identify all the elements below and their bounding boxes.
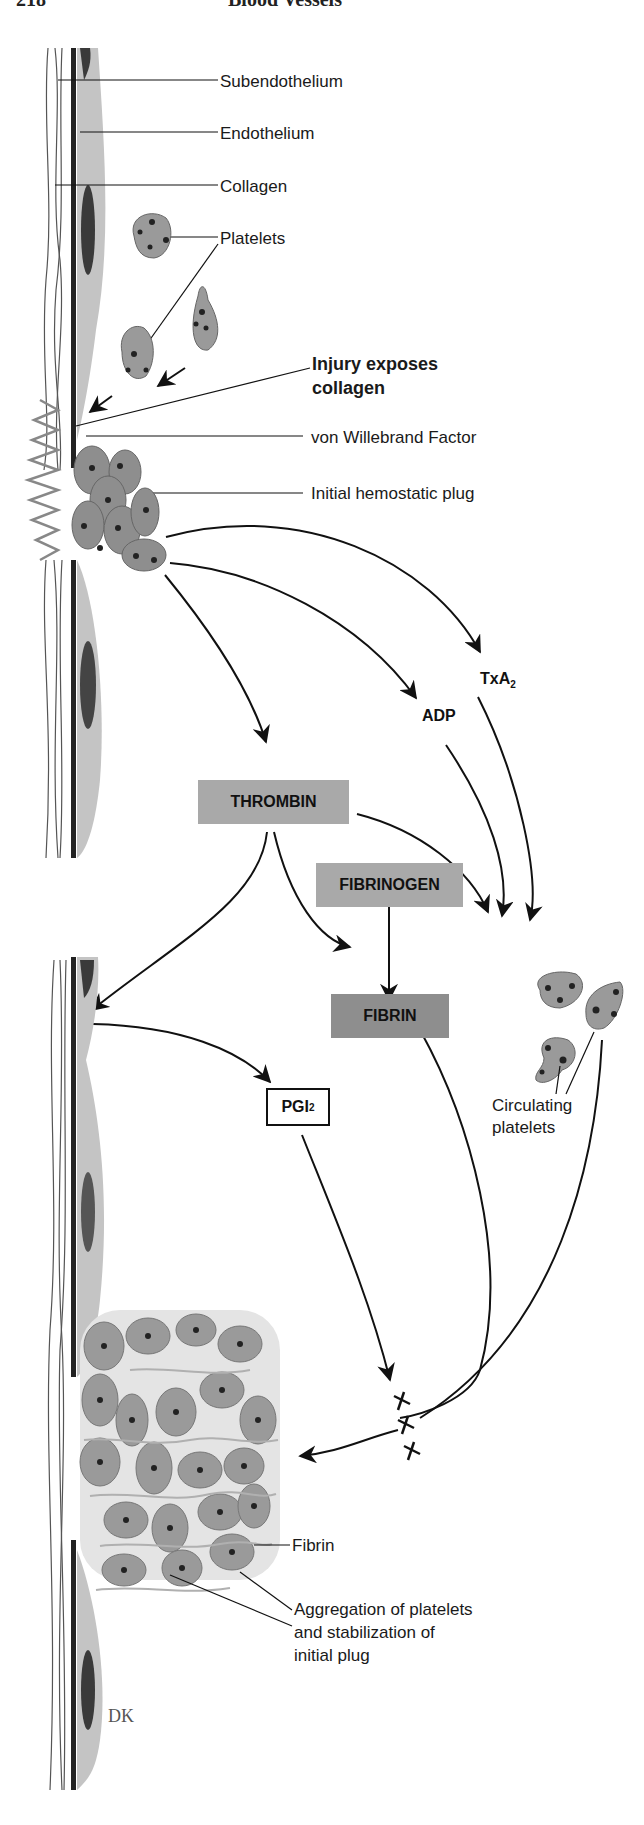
label-circulating-line1: Circulating	[492, 1096, 572, 1116]
initial-hemostatic-plug	[72, 446, 166, 571]
mediator-fibrinogen-box: FIBRINOGEN	[316, 863, 463, 907]
circulating-platelets	[536, 972, 623, 1094]
mediator-thrombin-box: THROMBIN	[198, 780, 349, 824]
label-aggregation-line3: initial plug	[294, 1646, 370, 1666]
label-initial-hemostatic-plug: Initial hemostatic plug	[311, 484, 474, 504]
label-subendothelium: Subendothelium	[220, 72, 343, 92]
mediator-pgi2-box: PGI2	[266, 1088, 330, 1126]
label-endothelium: Endothelium	[220, 124, 315, 144]
label-aggregation-line2: and stabilization of	[294, 1623, 435, 1643]
mediator-txa2: TxA2	[480, 670, 516, 690]
label-circulating-line2: platelets	[492, 1118, 555, 1138]
free-platelets	[90, 214, 218, 412]
mediator-adp: ADP	[422, 707, 456, 725]
aggregated-plug	[80, 1310, 280, 1591]
artist-signature: DK	[108, 1706, 134, 1726]
mediator-fibrin-box: FIBRIN	[331, 994, 449, 1038]
label-injury-line1: Injury exposes	[312, 352, 438, 376]
label-platelets: Platelets	[220, 229, 285, 249]
label-fibrin: Fibrin	[292, 1536, 335, 1556]
label-aggregation-line1: Aggregation of platelets	[294, 1600, 473, 1620]
label-von-willebrand-factor: von Willebrand Factor	[311, 428, 476, 448]
inhibition-marks	[394, 1392, 420, 1460]
label-collagen: Collagen	[220, 177, 287, 197]
label-injury-line2: collagen	[312, 376, 385, 400]
